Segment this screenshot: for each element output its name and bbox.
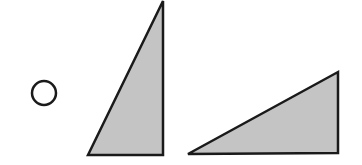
shapes-diagram (0, 0, 362, 165)
tall-right-triangle (88, 1, 163, 155)
wide-right-triangle (188, 72, 338, 154)
option-circle[interactable] (32, 81, 56, 105)
